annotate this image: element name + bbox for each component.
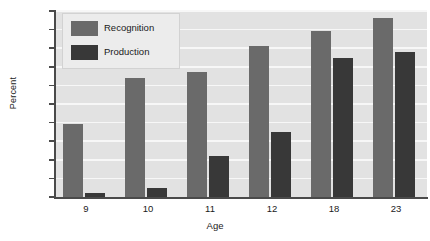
- x-axis-tick-label: 9: [56, 203, 116, 214]
- x-axis-tick-label: 18: [304, 203, 364, 214]
- legend-label-recognition: Recognition: [104, 22, 154, 33]
- bar-chart: Percent 0102030405060708090100 910111218…: [0, 0, 430, 241]
- bar-production-18: [333, 58, 353, 198]
- bar-production-12: [271, 132, 291, 197]
- legend-swatch-production: [71, 45, 98, 60]
- bar-production-23: [395, 52, 415, 197]
- x-axis-label: Age: [0, 220, 430, 231]
- x-axis-tick-label: 10: [118, 203, 178, 214]
- x-axis-tick-label: 12: [242, 203, 302, 214]
- x-axis-tick-label: 11: [180, 203, 240, 214]
- bar-production-11: [209, 156, 229, 197]
- legend-swatch-recognition: [71, 21, 98, 36]
- legend: Recognition Production: [62, 13, 180, 69]
- bar-production-10: [147, 188, 167, 197]
- legend-label-production: Production: [104, 46, 149, 57]
- bar-recognition-9: [63, 124, 83, 197]
- bar-recognition-10: [125, 78, 145, 197]
- bar-recognition-11: [187, 72, 207, 197]
- bar-recognition-23: [373, 18, 393, 197]
- bar-production-9: [85, 193, 105, 197]
- bar-recognition-18: [311, 31, 331, 197]
- x-axis-tick-label: 23: [366, 203, 426, 214]
- bar-recognition-12: [249, 46, 269, 197]
